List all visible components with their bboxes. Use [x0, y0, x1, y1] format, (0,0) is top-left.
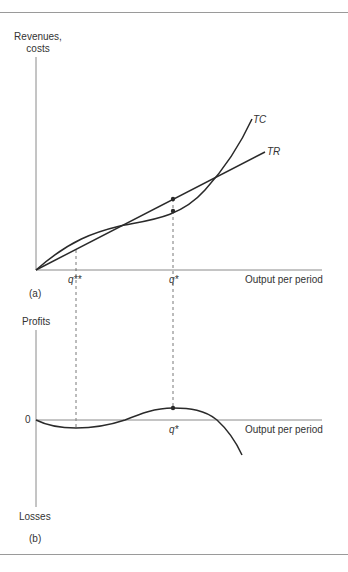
- tr-curve: [36, 152, 265, 270]
- tc-point-at-q-star: [171, 209, 175, 213]
- max-profit-point: [171, 406, 175, 410]
- profit-curve: [36, 408, 242, 455]
- tr-point-at-q-star: [171, 197, 175, 201]
- diagram-canvas: [0, 0, 348, 572]
- profit-maximization-figure: Revenues, costs TC TR q** q* Output per …: [0, 0, 348, 572]
- tc-curve: [36, 119, 252, 270]
